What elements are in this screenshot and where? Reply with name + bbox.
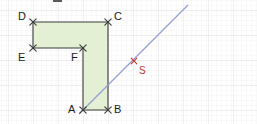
vertex-label-a: A (68, 104, 75, 115)
vertex-label-e: E (18, 52, 25, 63)
point-label-s: S (139, 66, 146, 76)
grid-lines (0, 0, 257, 124)
vertex-label-c: C (114, 11, 122, 22)
figure-canvas: ABCDEF S (0, 0, 257, 124)
vertex-label-b: B (114, 104, 121, 115)
vertex-label-f: F (71, 52, 78, 63)
geometry-figure (0, 0, 257, 124)
vertex-label-d: D (18, 11, 26, 22)
top-clipped-mark (53, 0, 62, 2)
